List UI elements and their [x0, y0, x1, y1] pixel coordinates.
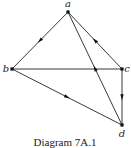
vertex-label-b: b: [3, 63, 9, 74]
vertex-a: [66, 10, 69, 13]
labels-group: abcd: [3, 0, 130, 139]
vertex-c: [120, 67, 123, 70]
directed-graph: abcd Diagram 7A.1: [0, 0, 131, 148]
vertex-d: [120, 123, 123, 126]
vertex-label-d: d: [119, 128, 125, 139]
vertex-label-c: c: [124, 63, 130, 74]
edges-group: [12, 12, 122, 125]
vertex-b: [10, 67, 13, 70]
diagram-caption: Diagram 7A.1: [34, 136, 97, 148]
vertex-label-a: a: [65, 0, 71, 9]
nodes-group: [10, 10, 123, 126]
arrowhead-icon: [64, 94, 70, 98]
arrowhead-icon: [120, 94, 123, 100]
